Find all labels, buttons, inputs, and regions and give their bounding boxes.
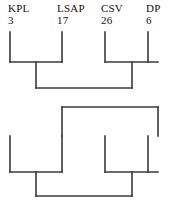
dendrogram-lines — [0, 0, 176, 204]
diagram-canvas: KPL 3 LSAP 17 CSV 26 DP 6 — [0, 0, 176, 204]
dendrogram-line-group — [10, 32, 158, 196]
